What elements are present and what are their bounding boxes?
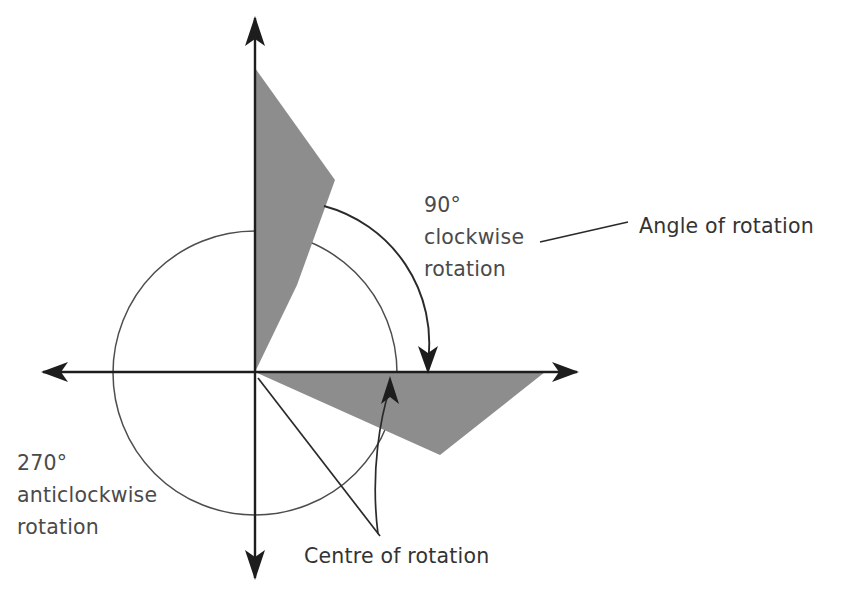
rotation-arc-arrow-icon (418, 346, 438, 374)
clockwise-rotation-label: 90° clockwise rotation (424, 193, 524, 281)
anticlockwise-rotation-label: 270° anticlockwise rotation (17, 451, 157, 539)
anticlockwise-rotation-label-line-2: anticlockwise (17, 483, 157, 507)
rotation-diagram: 90° clockwise rotation Angle of rotation… (0, 0, 847, 591)
original-shape (255, 68, 335, 372)
clockwise-rotation-label-line-3: rotation (424, 257, 506, 281)
angle-of-rotation-leader-line (540, 222, 628, 242)
angle-of-rotation-label: Angle of rotation (639, 214, 814, 238)
clockwise-rotation-label-line-1: 90° (424, 193, 461, 217)
clockwise-rotation-arc (324, 206, 429, 362)
rotated-shape (255, 372, 545, 455)
clockwise-rotation-label-line-2: clockwise (424, 225, 524, 249)
anticlockwise-rotation-label-line-1: 270° (17, 451, 67, 475)
diagram-canvas: 90° clockwise rotation Angle of rotation… (0, 0, 847, 591)
centre-of-rotation-label-line-1: Centre of rotation (304, 544, 489, 568)
centre-of-rotation-label: Centre of rotation (304, 544, 489, 568)
anticlockwise-rotation-label-line-3: rotation (17, 515, 99, 539)
angle-of-rotation-label-line-1: Angle of rotation (639, 214, 814, 238)
